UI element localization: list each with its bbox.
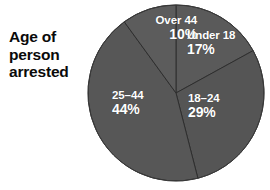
pie-label-25-44-value: 44% — [112, 103, 178, 117]
pie-label-18-24: 18–24 29% — [188, 92, 250, 119]
pie-label-under-18-value: 17% — [187, 43, 257, 57]
pie-label-18-24-value: 29% — [188, 106, 250, 120]
pie-label-25-44: 25–44 44% — [112, 89, 178, 116]
pie-label-under-18: Under 18 17% — [187, 29, 257, 56]
pie-chart-figure: Age of person arrested Over 44 10% Under… — [0, 0, 270, 190]
